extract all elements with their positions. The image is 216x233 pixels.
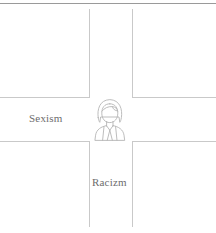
horizontal-road-top-edge-right [132, 97, 216, 98]
horizontal-road-bottom-edge-left [0, 141, 90, 142]
horizontal-road-bottom-edge-right [132, 141, 216, 142]
road-label-racizm: Racizm [92, 176, 127, 188]
vertical-road-right-edge-top [132, 9, 133, 98]
vertical-road-left-edge-bottom [89, 141, 90, 227]
vertical-road-right-edge-bottom [132, 141, 133, 227]
person-avatar-icon [90, 95, 130, 141]
top-border-rule [0, 3, 216, 4]
road-label-sexism: Sexism [29, 112, 63, 124]
horizontal-road-top-edge-left [0, 97, 90, 98]
vertical-road-left-edge-top [89, 9, 90, 98]
diagram-canvas: Sexism Racizm [0, 0, 216, 233]
